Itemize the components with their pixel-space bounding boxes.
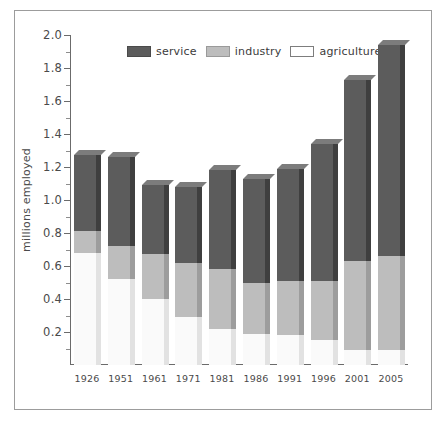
x-axis-label: 1971 <box>176 373 201 384</box>
bar-segment-industry-side <box>400 256 405 350</box>
bar-segment-agriculture[interactable] <box>175 317 197 365</box>
bar-top-face <box>74 150 106 155</box>
bar-segment-industry[interactable] <box>277 281 299 335</box>
y-tick-label: 0.8 <box>43 226 62 240</box>
bar-segment-service-side <box>164 185 169 254</box>
bar-segment-service[interactable] <box>344 80 366 262</box>
bar-segment-agriculture-side <box>333 340 338 365</box>
bar-stack[interactable] <box>209 170 231 365</box>
bar-segment-agriculture-side <box>400 350 405 365</box>
bar-segment-agriculture-side <box>96 253 101 365</box>
bar-segment-agriculture-side <box>265 334 270 365</box>
bar-stack[interactable] <box>243 179 265 365</box>
bar-segment-industry-side <box>366 261 371 350</box>
bar-segment-service[interactable] <box>277 169 299 281</box>
y-tick-label: 2.0 <box>43 28 62 42</box>
bar-segment-agriculture[interactable] <box>378 350 400 365</box>
x-axis-label: 1961 <box>142 373 167 384</box>
bar-segment-industry[interactable] <box>344 261 366 350</box>
bar-segment-service-side <box>366 80 371 262</box>
chart-figure: service industry agriculture millions em… <box>14 10 432 410</box>
y-tick-label: 1.6 <box>43 94 62 108</box>
bar-segment-industry[interactable] <box>108 246 130 279</box>
bar-segment-service-side <box>400 45 405 256</box>
bar-top-face <box>311 139 343 144</box>
y-tick-label: 1.4 <box>43 127 62 141</box>
bar-segment-service-side <box>299 169 304 281</box>
bar-series-group: 1926195119611971198119861991199620012005 <box>70 35 408 365</box>
bar-segment-agriculture-side <box>366 350 371 365</box>
bar-stack[interactable] <box>74 155 96 365</box>
bar-segment-service[interactable] <box>175 187 197 263</box>
bar-segment-service[interactable] <box>243 179 265 283</box>
bar-segment-agriculture[interactable] <box>74 253 96 365</box>
x-axis-label: 1951 <box>108 373 133 384</box>
bar-segment-agriculture[interactable] <box>108 279 130 365</box>
bar-segment-service[interactable] <box>311 144 333 281</box>
bar-segment-agriculture[interactable] <box>142 299 164 365</box>
x-axis-label: 1981 <box>210 373 235 384</box>
bar-stack[interactable] <box>175 187 197 365</box>
bar-segment-agriculture[interactable] <box>243 334 265 365</box>
bar-top-face <box>344 75 376 80</box>
y-axis-title: millions employed <box>20 148 33 252</box>
bar-top-face <box>142 180 174 185</box>
y-tick-label: 1.8 <box>43 61 62 75</box>
bar-top-face <box>175 182 207 187</box>
bar-segment-agriculture-side <box>231 329 236 365</box>
bar-segment-industry-side <box>231 269 236 328</box>
bar-stack[interactable] <box>378 45 400 365</box>
bar-segment-service-side <box>231 170 236 269</box>
bar-segment-agriculture[interactable] <box>344 350 366 365</box>
bar-segment-service-side <box>96 155 101 231</box>
bar-segment-industry[interactable] <box>243 283 265 334</box>
y-tick-label: 0.6 <box>43 259 62 273</box>
bar-segment-agriculture[interactable] <box>311 340 333 365</box>
y-tick-label: 1.2 <box>43 160 62 174</box>
bar-segment-agriculture-side <box>130 279 135 365</box>
bar-segment-industry[interactable] <box>209 269 231 328</box>
bar-segment-industry-side <box>96 231 101 252</box>
bar-top-face <box>243 174 275 179</box>
bar-segment-agriculture-side <box>164 299 169 365</box>
bar-stack[interactable] <box>311 144 333 365</box>
bar-top-face <box>277 164 309 169</box>
x-axis-label: 2001 <box>345 373 370 384</box>
bar-segment-industry[interactable] <box>142 254 164 299</box>
bar-top-face <box>378 40 410 45</box>
bar-segment-industry[interactable] <box>311 281 333 340</box>
bar-segment-industry[interactable] <box>175 263 197 317</box>
bar-segment-service-side <box>333 144 338 281</box>
plot-area: millions employed 0.20.40.60.81.01.21.41… <box>70 35 408 365</box>
bar-segment-service[interactable] <box>378 45 400 256</box>
y-tick-label: 1.0 <box>43 193 62 207</box>
bar-segment-service-side <box>265 179 270 283</box>
y-tick-label: 0.4 <box>43 292 62 306</box>
bar-stack[interactable] <box>344 80 366 365</box>
x-axis-label: 1986 <box>243 373 268 384</box>
bar-segment-service[interactable] <box>209 170 231 269</box>
bar-segment-service[interactable] <box>74 155 96 231</box>
bar-segment-industry-side <box>299 281 304 335</box>
x-axis-label: 1926 <box>74 373 99 384</box>
bar-segment-industry-side <box>130 246 135 279</box>
bar-segment-service[interactable] <box>108 157 130 246</box>
bar-stack[interactable] <box>277 169 299 365</box>
bar-stack[interactable] <box>108 157 130 365</box>
x-axis-label: 2005 <box>379 373 404 384</box>
bar-segment-agriculture[interactable] <box>277 335 299 365</box>
x-axis-label: 1991 <box>277 373 302 384</box>
bar-segment-industry[interactable] <box>378 256 400 350</box>
bar-top-face <box>108 152 140 157</box>
bar-segment-service[interactable] <box>142 185 164 254</box>
bar-segment-service-side <box>130 157 135 246</box>
bar-stack[interactable] <box>142 185 164 365</box>
bar-segment-industry[interactable] <box>74 231 96 252</box>
bar-segment-industry-side <box>164 254 169 299</box>
bar-segment-service-side <box>197 187 202 263</box>
x-axis-label: 1996 <box>311 373 336 384</box>
bar-segment-agriculture[interactable] <box>209 329 231 365</box>
y-tick-label: 0.2 <box>43 325 62 339</box>
bar-segment-industry-side <box>265 283 270 334</box>
bar-segment-industry-side <box>333 281 338 340</box>
